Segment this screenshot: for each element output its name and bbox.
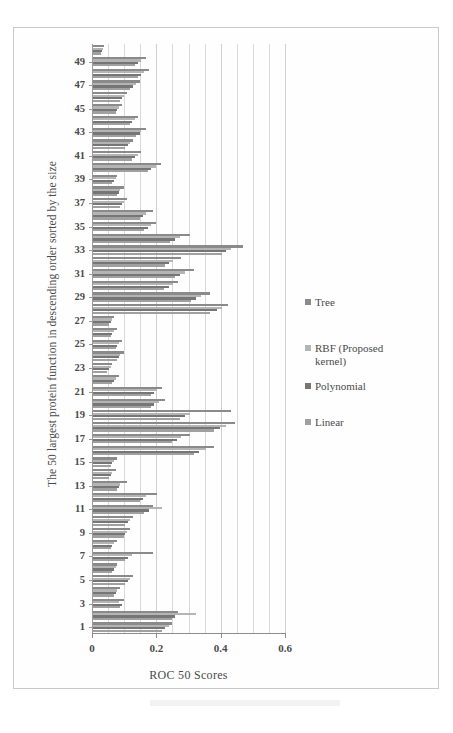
y-tick-label: 27: [55, 316, 85, 327]
y-tick-mark: [89, 227, 92, 228]
legend-label: Tree: [315, 296, 335, 309]
bar-group: [93, 68, 285, 80]
legend-swatch-icon: [305, 345, 311, 351]
y-tick-mark: [89, 274, 92, 275]
bar-group: [93, 291, 285, 303]
bar-group: [93, 221, 285, 233]
y-tick-label: 29: [55, 292, 85, 303]
bar-linear: [93, 418, 180, 420]
y-tick-mark: [89, 179, 92, 180]
bar-group: [93, 409, 285, 421]
bar-linear: [93, 170, 148, 172]
bar-group: [93, 374, 285, 386]
bar-linear: [93, 606, 120, 608]
x-tick-mark: [156, 633, 157, 638]
bar-linear: [93, 382, 112, 384]
y-tick-mark: [89, 368, 92, 369]
y-tick-label: 7: [55, 551, 85, 562]
y-tick-mark: [89, 556, 92, 557]
legend-entry[interactable]: Linear: [305, 416, 344, 429]
bar-linear: [93, 441, 172, 443]
plot-area: 1357911131517192123252729313335373941434…: [92, 44, 285, 633]
bar-group: [93, 150, 285, 162]
bar-group: [93, 551, 285, 563]
y-tick-label: 49: [55, 56, 85, 67]
chart-figure: The 50 largest protein function in desce…: [0, 0, 453, 733]
x-tick-label: 0.6: [278, 642, 292, 654]
bar-linear: [93, 535, 124, 537]
bar-linear: [93, 500, 140, 502]
bar-linear: [93, 571, 112, 573]
y-tick-label: 19: [55, 410, 85, 421]
bar-linear: [93, 52, 101, 54]
bar-linear: [93, 111, 116, 113]
y-tick-label: 5: [55, 575, 85, 586]
legend-swatch-icon: [305, 419, 311, 425]
bar-linear: [93, 559, 125, 561]
y-tick-label: 15: [55, 457, 85, 468]
legend-label: Linear: [315, 416, 344, 429]
bar-group: [93, 244, 285, 256]
bar-linear: [93, 194, 117, 196]
legend-entry[interactable]: Polynomial: [305, 380, 366, 393]
bar-linear: [93, 158, 132, 160]
y-tick-mark: [89, 321, 92, 322]
y-tick-label: 25: [55, 339, 85, 350]
bar-linear: [93, 465, 111, 467]
legend-swatch-icon: [305, 383, 311, 389]
y-tick-label: 17: [55, 433, 85, 444]
bar-group: [93, 197, 285, 209]
legend-entry[interactable]: RBF (Proposed kernel): [305, 342, 383, 368]
y-tick-mark: [89, 580, 92, 581]
bar-group: [93, 162, 285, 174]
y-tick-label: 31: [55, 268, 85, 279]
bar-group: [93, 586, 285, 598]
y-tick-mark: [89, 62, 92, 63]
bar-linear: [93, 217, 140, 219]
bar-group: [93, 598, 285, 610]
bar-group: [93, 174, 285, 186]
bar-linear: [93, 335, 111, 337]
bar-group: [93, 456, 285, 468]
bar-group: [93, 362, 285, 374]
y-tick-mark: [89, 250, 92, 251]
y-tick-label: 1: [55, 622, 85, 633]
bar-linear: [93, 241, 170, 243]
y-tick-mark: [89, 156, 92, 157]
y-tick-label: 47: [55, 80, 85, 91]
bar-linear: [93, 100, 120, 102]
x-tick-mark: [221, 633, 222, 638]
y-tick-mark: [89, 85, 92, 86]
bar-linear: [93, 135, 136, 137]
bar-linear: [93, 276, 175, 278]
bar-linear: [93, 630, 162, 632]
x-tick-label: 0.2: [149, 642, 163, 654]
bar-linear: [93, 182, 112, 184]
bar-group: [93, 468, 285, 480]
bar-group: [93, 103, 285, 115]
bar-group: [93, 574, 285, 586]
bar-group: [93, 303, 285, 315]
legend-label: Polynomial: [315, 380, 366, 393]
y-tick-mark: [89, 203, 92, 204]
bar-group: [93, 503, 285, 515]
bar-linear: [93, 359, 117, 361]
x-tick-label: 0: [89, 642, 95, 654]
bar-group: [93, 386, 285, 398]
bar-linear: [93, 347, 116, 349]
legend-label: RBF (Proposed kernel): [315, 342, 383, 368]
bar-group: [93, 280, 285, 292]
bar-linear: [93, 64, 135, 66]
y-tick-label: 41: [55, 151, 85, 162]
y-tick-mark: [89, 486, 92, 487]
legend-entry[interactable]: Tree: [305, 296, 335, 309]
bar-group: [93, 492, 285, 504]
y-tick-mark: [89, 627, 92, 628]
bar-group: [93, 91, 285, 103]
bar-linear: [93, 394, 151, 396]
y-tick-label: 11: [55, 504, 85, 515]
x-axis-title: ROC 50 Scores: [92, 668, 285, 683]
bar-group: [93, 397, 285, 409]
bar-group: [93, 256, 285, 268]
bar-group: [93, 315, 285, 327]
